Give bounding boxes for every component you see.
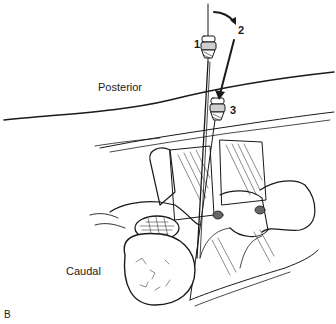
medical-illustration: 1 2 3 Posterior Caudal B [0,0,336,324]
needle-hub-3-icon [210,98,225,120]
step-label-1: 1 [194,38,200,50]
step-label-2: 2 [238,24,244,36]
needle-hub-1-icon [201,36,216,58]
label-posterior: Posterior [98,81,142,93]
spine-needle-drawing [0,0,336,324]
panel-label: B [4,309,11,321]
label-caudal: Caudal [66,265,101,277]
step-label-3: 3 [230,104,236,116]
